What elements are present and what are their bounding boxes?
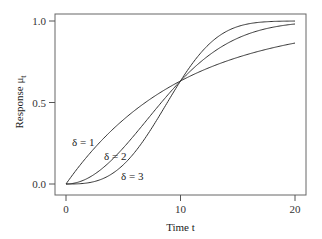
x-tick-0: 0 — [63, 203, 69, 215]
annotation-delta-3: δ = 3 — [121, 170, 144, 182]
x-tick-20: 20 — [290, 203, 302, 215]
curve-delta-1 — [66, 43, 295, 184]
x-tick-10: 10 — [175, 203, 187, 215]
chart-svg: 0.0 0.5 1.0 0 10 20 Time t Response μt δ… — [0, 0, 322, 239]
curve-delta-2 — [66, 24, 295, 184]
annotation-delta-1: δ = 1 — [72, 136, 94, 148]
y-axis-title: Response μt — [13, 75, 28, 129]
curves — [66, 21, 295, 184]
x-axis-title: Time t — [166, 221, 195, 233]
y-axis: 0.0 0.5 1.0 — [32, 15, 55, 190]
curve-delta-3 — [66, 21, 295, 184]
plot-frame — [55, 14, 306, 195]
y-tick-0: 0.0 — [32, 178, 46, 190]
y-tick-1: 1.0 — [32, 15, 46, 27]
x-axis: 0 10 20 — [63, 195, 301, 215]
y-tick-0.5: 0.5 — [32, 97, 46, 109]
annotation-delta-2: δ = 2 — [104, 150, 126, 162]
